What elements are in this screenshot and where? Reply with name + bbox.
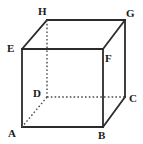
vertex-label-F: F — [105, 53, 112, 64]
vertex-label-B: B — [98, 130, 105, 141]
edge-layer — [22, 20, 125, 127]
vertex-label-E: E — [7, 43, 14, 54]
vertex-label-A: A — [8, 128, 16, 139]
cube-edge-FG — [103, 20, 125, 49]
cube-diagram-canvas: ABCDEFGH — [0, 0, 143, 144]
vertex-label-G: G — [126, 8, 135, 19]
vertex-label-H: H — [38, 6, 47, 17]
cube-edge-EH — [22, 20, 47, 49]
cube-edge-BC — [103, 97, 125, 127]
cube-svg — [0, 0, 143, 144]
vertex-label-D: D — [33, 88, 41, 99]
vertex-label-C: C — [129, 93, 137, 104]
cube-edge-DA — [22, 97, 47, 127]
